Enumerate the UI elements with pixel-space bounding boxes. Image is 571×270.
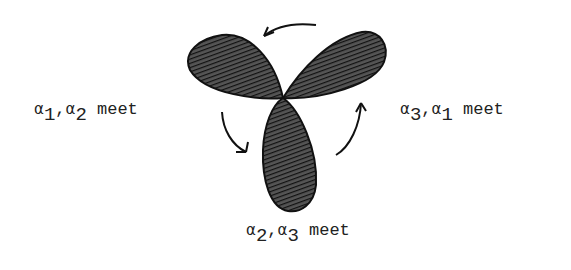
arrow-top [264, 24, 316, 36]
diagram: α1,α2 meet α3,α1 meet α2,α3 meet [0, 0, 571, 270]
subscript: 3 [287, 225, 298, 247]
subscript: 3 [410, 104, 421, 126]
alpha-symbol: α [278, 221, 288, 239]
alpha-symbol: α [34, 100, 44, 118]
alpha-symbol: α [66, 100, 76, 118]
meet-word: meet [463, 100, 504, 119]
label-alpha3-alpha1-meet: α3,α1 meet [400, 100, 504, 126]
subscript: 1 [44, 104, 55, 126]
subscript: 2 [75, 104, 86, 126]
label-alpha2-alpha3-meet: α2,α3 meet [246, 221, 350, 247]
arrow-right [336, 103, 366, 155]
alpha-symbol: α [432, 100, 442, 118]
lobe-top-left [188, 35, 283, 99]
label-alpha1-alpha2-meet: α1,α2 meet [34, 100, 138, 126]
subscript: 2 [256, 225, 267, 247]
arrow-left [222, 112, 248, 152]
alpha-symbol: α [246, 221, 256, 239]
subscript: 1 [441, 104, 452, 126]
lobe-bottom [263, 98, 316, 211]
meet-word: meet [97, 100, 138, 119]
lobe-top-right [283, 32, 386, 98]
alpha-symbol: α [400, 100, 410, 118]
meet-word: meet [309, 221, 350, 240]
